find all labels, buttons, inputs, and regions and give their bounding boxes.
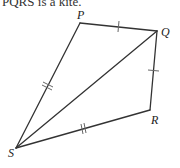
vertex-label-s: S xyxy=(8,146,14,160)
edge-rs xyxy=(16,110,150,148)
diagonal-sq xyxy=(16,31,157,148)
vertex-label-r: R xyxy=(150,113,159,127)
tick-mark-qr xyxy=(148,70,159,71)
vertex-label-q: Q xyxy=(161,25,170,39)
tick-mark-pq xyxy=(118,21,119,32)
kite-diagram: P Q R S xyxy=(0,0,180,168)
vertex-label-p: P xyxy=(76,8,85,22)
edge-sp xyxy=(16,23,80,148)
